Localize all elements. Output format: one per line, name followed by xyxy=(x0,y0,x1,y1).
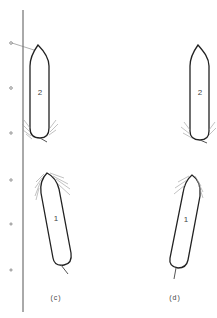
ship-maneuver-diagram: 2 1 (c) 2 1 (d) xyxy=(0,0,217,318)
bollard-icon xyxy=(10,132,12,134)
rudder-line xyxy=(40,138,47,142)
bollard-icon xyxy=(10,223,12,225)
bollard-icon xyxy=(10,179,12,181)
panel-label-c: (c) xyxy=(50,294,61,302)
ship-number: 2 xyxy=(38,88,43,97)
ship-2-d: 2 xyxy=(181,45,216,143)
ship-1-c: 1 xyxy=(35,173,71,274)
panel-d: 2 1 (d) xyxy=(169,45,216,302)
bollard-icon xyxy=(10,87,13,90)
wake-lines xyxy=(49,120,58,135)
ship-number: 2 xyxy=(198,88,203,97)
ship-number: 1 xyxy=(184,215,189,224)
ship-number: 1 xyxy=(54,214,59,223)
wake-lines xyxy=(209,122,216,135)
ship-1-d: 1 xyxy=(170,175,203,279)
rudder-line xyxy=(200,140,207,143)
ship-2-c: 2 xyxy=(22,45,58,142)
bollards xyxy=(10,42,13,271)
panel-c: 2 1 (c) xyxy=(22,45,71,302)
bollard-icon xyxy=(10,269,12,271)
rudder-line xyxy=(174,268,176,279)
panel-label-d: (d) xyxy=(169,294,181,302)
rudder-line xyxy=(61,265,68,274)
bollard-icon xyxy=(10,42,13,45)
